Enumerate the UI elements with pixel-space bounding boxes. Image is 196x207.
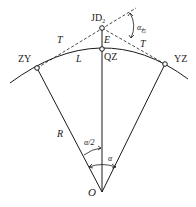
jd-label: JD2 (91, 12, 105, 24)
half-angle-label: α/2 (84, 138, 94, 147)
half-angle-arc (84, 148, 101, 155)
yz-point-marker (163, 62, 168, 67)
deflection-angle-arc (130, 13, 134, 38)
yz-label: YZ (174, 53, 187, 64)
radius-right-line (102, 64, 165, 192)
tangent-right-label: T (140, 38, 147, 49)
tangent-left-label: T (57, 34, 64, 45)
curve-diagram: JD2 QZ ZY YZ O T T E L R α/2 α α右 (0, 0, 196, 207)
deflection-angle-label: α右 (137, 23, 146, 34)
tangent-left-line (37, 8, 136, 68)
radius-left-line (37, 68, 102, 192)
zy-point-marker (35, 66, 40, 71)
zy-label: ZY (18, 53, 31, 64)
external-label: E (103, 34, 110, 45)
radius-label: R (56, 128, 63, 139)
angle-label: α (108, 154, 113, 163)
length-label: L (75, 53, 82, 64)
jd-point-marker (100, 26, 105, 31)
qz-label: QZ (104, 51, 117, 62)
o-label: O (88, 186, 96, 198)
